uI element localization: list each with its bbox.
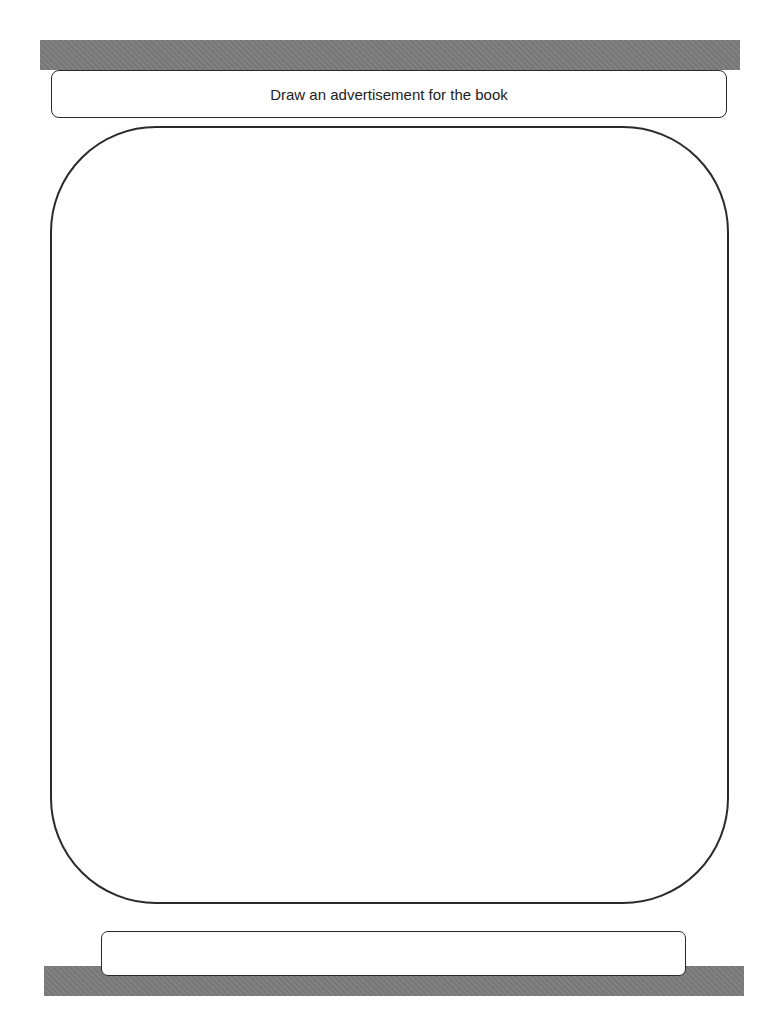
bottom-label-box[interactable] <box>101 931 686 976</box>
title-box: Draw an advertisement for the book <box>51 70 727 118</box>
worksheet-title: Draw an advertisement for the book <box>270 86 508 103</box>
drawing-area[interactable] <box>50 126 729 904</box>
top-decorative-bar <box>40 40 740 70</box>
